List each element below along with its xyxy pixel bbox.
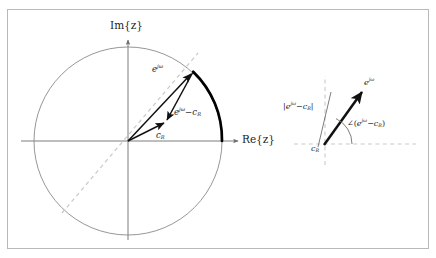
figure-canvas [0,0,436,258]
angle-label: ∠(ejω−cR) [347,120,385,128]
magnitude-label: |ejω−cR| [283,103,314,111]
real-axis-label: Re{z} [242,134,275,145]
figure-border [8,10,429,249]
figure-root: Im{z} Re{z} ejω ejω−cR cR |ejω−cR| ∠(ejω… [0,0,436,258]
detail-origin-label: cR [311,145,319,153]
detail-vector-label: ejω [364,79,374,87]
e-jw-vector-label: ejω [152,65,163,74]
difference-vector-label: ejω−cR [174,108,201,117]
imaginary-axis-label: Im{z} [110,20,143,31]
cR-vector-label: cR [156,131,165,140]
